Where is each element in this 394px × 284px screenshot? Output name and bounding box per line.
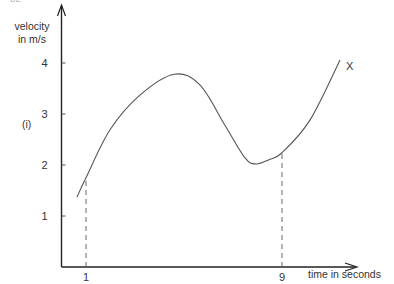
x-tick-label: 1 (83, 271, 89, 283)
plot-area: 123419 (0, 0, 394, 284)
ticks: 123419 (41, 57, 285, 283)
y-tick-label: 4 (41, 57, 47, 69)
velocity-curve (77, 60, 340, 197)
y-tick-label: 1 (41, 210, 47, 222)
y-tick-label: 3 (41, 108, 47, 120)
axes (58, 5, 358, 271)
series (77, 60, 340, 197)
x-tick-label: 9 (279, 271, 285, 283)
dashed-guides (86, 153, 282, 267)
y-tick-label: 2 (41, 159, 47, 171)
